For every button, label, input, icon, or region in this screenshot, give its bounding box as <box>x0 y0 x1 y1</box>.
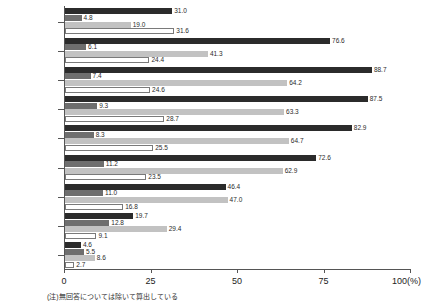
bar-segment[interactable] <box>65 73 91 79</box>
bar-value-label: 11.2 <box>104 161 118 167</box>
bar-segment[interactable] <box>65 125 352 131</box>
bar-value-label: 64.7 <box>289 138 304 144</box>
bar-group: 13～19歳76.66.141.324.4 <box>64 35 410 64</box>
bar-value-label: 6.1 <box>86 44 97 50</box>
bar-segment[interactable] <box>65 138 289 144</box>
y-axis-tick <box>58 109 64 110</box>
y-axis-tick <box>58 197 64 198</box>
x-axis-tick <box>237 269 238 273</box>
bar-segment[interactable] <box>65 226 167 232</box>
bar-segment[interactable] <box>65 145 153 151</box>
bar-segment[interactable] <box>65 44 86 50</box>
bar-segment[interactable] <box>65 103 97 109</box>
bar-segment[interactable] <box>65 242 81 248</box>
x-axis-tick-label: 100(%) <box>392 276 421 286</box>
bar-row: 87.5 <box>65 96 411 102</box>
bar-segment[interactable] <box>65 28 174 34</box>
y-axis-tick <box>58 226 64 227</box>
bar-group: 50～59歳72.611.262.923.5 <box>64 152 410 181</box>
bar-segment[interactable] <box>65 87 150 93</box>
bar-row: 64.2 <box>65 80 411 86</box>
bar-segment[interactable] <box>65 96 368 102</box>
bar-row: 63.3 <box>65 109 411 115</box>
bar-row: 25.5 <box>65 145 411 151</box>
bar-segment[interactable] <box>65 168 283 174</box>
bar-segment[interactable] <box>65 57 149 63</box>
bar-value-label: 12.8 <box>109 219 124 225</box>
bar-segment[interactable] <box>65 80 287 86</box>
bar-row: 2.7 <box>65 262 411 268</box>
bar-row: 6.1 <box>65 44 411 50</box>
bar-value-label: 7.4 <box>91 73 102 79</box>
y-axis-tick <box>58 80 64 81</box>
bar-segment[interactable] <box>65 204 123 210</box>
bar-group: 30～39歳87.59.363.328.7 <box>64 94 410 123</box>
bar-value-label: 72.6 <box>316 154 331 160</box>
bar-value-label: 23.5 <box>146 174 161 180</box>
bar-segment[interactable] <box>65 249 84 255</box>
plot-area: 0255075100(%)6～12歳31.04.819.031.613～19歳7… <box>64 6 410 269</box>
bar-value-label: 9.1 <box>96 233 107 239</box>
bar-segment[interactable] <box>65 184 226 190</box>
bar-segment[interactable] <box>65 155 316 161</box>
y-axis-tick <box>58 168 64 169</box>
bar-value-label: 28.7 <box>164 116 179 122</box>
x-axis-tick <box>410 269 411 273</box>
x-axis-tick-label: 50 <box>232 276 242 286</box>
x-axis-tick-label: 0 <box>61 276 66 286</box>
bar-value-label: 8.3 <box>94 132 105 138</box>
bar-segment[interactable] <box>65 51 208 57</box>
bar-group: 80歳以上4.65.58.62.7 <box>64 240 410 269</box>
bar-segment[interactable] <box>65 67 372 73</box>
bar-segment[interactable] <box>65 174 146 180</box>
bar-segment[interactable] <box>65 15 82 21</box>
bar-row: 88.7 <box>65 67 411 73</box>
bar-value-label: 5.5 <box>84 249 95 255</box>
bar-segment[interactable] <box>65 197 228 203</box>
bar-segment[interactable] <box>65 190 103 196</box>
bar-row: 8.3 <box>65 132 411 138</box>
bar-value-label: 2.7 <box>74 262 85 268</box>
bar-row: 9.3 <box>65 103 411 109</box>
bar-value-label: 19.0 <box>131 21 146 27</box>
bar-row: 4.6 <box>65 242 411 248</box>
bar-segment[interactable] <box>65 262 74 268</box>
bar-value-label: 47.0 <box>228 197 243 203</box>
bar-segment[interactable] <box>65 161 104 167</box>
bar-segment[interactable] <box>65 220 109 226</box>
bar-segment[interactable] <box>65 8 172 14</box>
bar-value-label: 46.4 <box>226 184 241 190</box>
bar-segment[interactable] <box>65 132 94 138</box>
bar-value-label: 76.6 <box>330 38 345 44</box>
bar-value-label: 88.7 <box>372 67 387 73</box>
x-axis-tick <box>324 269 325 273</box>
bar-value-label: 24.4 <box>149 57 164 63</box>
bar-segment[interactable] <box>65 38 330 44</box>
bar-chart: 0255075100(%)6～12歳31.04.819.031.613～19歳7… <box>0 0 434 308</box>
x-axis-tick <box>151 269 152 273</box>
bar-row: 19.0 <box>65 22 411 28</box>
bar-row: 29.4 <box>65 226 411 232</box>
bar-value-label: 11.0 <box>103 190 117 196</box>
y-axis-tick <box>58 138 64 139</box>
bar-value-label: 64.2 <box>287 80 302 86</box>
bar-row: 31.0 <box>65 8 411 14</box>
bar-value-label: 87.5 <box>368 96 383 102</box>
bar-segment[interactable] <box>65 116 164 122</box>
bar-group: 60～69歳46.411.047.016.8 <box>64 181 410 210</box>
y-axis-tick <box>58 51 64 52</box>
bar-row: 47.0 <box>65 197 411 203</box>
bar-row: 23.5 <box>65 174 411 180</box>
bar-value-label: 16.8 <box>123 203 138 209</box>
bar-value-label: 31.6 <box>174 28 189 34</box>
bar-row: 11.2 <box>65 161 411 167</box>
y-axis-tick <box>58 255 64 256</box>
bar-row: 62.9 <box>65 168 411 174</box>
bar-value-label: 9.3 <box>97 103 108 109</box>
bar-row: 76.6 <box>65 38 411 44</box>
bar-row: 24.6 <box>65 87 411 93</box>
bar-segment[interactable] <box>65 22 131 28</box>
bar-segment[interactable] <box>65 233 96 239</box>
bar-row: 8.6 <box>65 255 411 261</box>
bar-row: 82.9 <box>65 125 411 131</box>
